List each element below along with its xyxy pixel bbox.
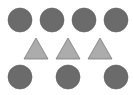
middle-row-triangles <box>24 38 112 59</box>
middle-row-triangle-1 <box>24 38 48 59</box>
shape-pattern-figure <box>0 0 134 95</box>
top-row-circle-4 <box>104 8 128 32</box>
bottom-row-circle-1 <box>8 65 32 89</box>
middle-row-triangle-3 <box>88 38 112 59</box>
top-row-circles <box>8 8 128 32</box>
top-row-circle-1 <box>8 8 32 32</box>
top-row-circle-3 <box>72 8 96 32</box>
bottom-row-circles <box>8 65 128 89</box>
bottom-row-circle-3 <box>104 65 128 89</box>
shape-pattern-svg <box>0 0 134 95</box>
middle-row-triangle-2 <box>56 38 80 59</box>
bottom-row-circle-2 <box>56 65 80 89</box>
top-row-circle-2 <box>40 8 64 32</box>
